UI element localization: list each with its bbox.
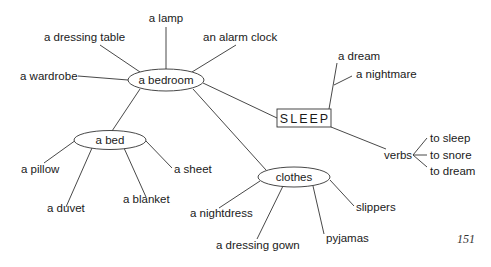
line-sleep-verbs bbox=[331, 127, 386, 149]
line-bed-blanket bbox=[124, 148, 146, 197]
line-bed-pillow bbox=[44, 140, 76, 163]
item-wardrobe: a wardrobe bbox=[20, 70, 78, 82]
page-number: 151 bbox=[457, 232, 475, 246]
item-nightmare: a nightmare bbox=[356, 68, 417, 80]
item-dressing-table: a dressing table bbox=[44, 31, 125, 43]
line-clothes-nightdress bbox=[219, 181, 260, 208]
item-pyjamas: pyjamas bbox=[326, 232, 369, 244]
line-bedroom-clothes bbox=[193, 89, 266, 170]
item-pillow: a pillow bbox=[21, 163, 60, 175]
sleep-title: SLEEP bbox=[280, 112, 330, 126]
bed-label: a bed bbox=[96, 134, 125, 146]
sleep-mind-map: a bedroom a bed clothes SLEEP verbs a la… bbox=[0, 0, 491, 267]
bedroom-label: a bedroom bbox=[139, 74, 194, 86]
item-to-dream: to dream bbox=[430, 165, 475, 177]
line-verbs-to-dream bbox=[413, 155, 427, 167]
line-bed-duvet bbox=[66, 148, 92, 207]
line-bedroom-alarm-clock bbox=[192, 45, 236, 72]
line-clothes-pyjamas bbox=[313, 186, 324, 234]
line-bed-sheet bbox=[146, 141, 172, 168]
line-verbs-to-sleep bbox=[413, 138, 427, 155]
clothes-label: clothes bbox=[276, 171, 313, 183]
item-blanket: a blanket bbox=[123, 193, 170, 205]
item-to-snore: to snore bbox=[430, 149, 472, 161]
verbs-label: verbs bbox=[384, 149, 412, 161]
item-duvet: a duvet bbox=[47, 202, 86, 214]
item-to-sleep: to sleep bbox=[430, 132, 470, 144]
line-bedroom-bed bbox=[112, 89, 140, 131]
line-sleep-dream bbox=[329, 63, 337, 109]
item-dressing-gown: a dressing gown bbox=[216, 239, 300, 251]
line-clothes-slippers bbox=[330, 180, 354, 206]
line-sleep-nightmare bbox=[334, 76, 352, 85]
item-sheet: a sheet bbox=[174, 163, 213, 175]
item-slippers: slippers bbox=[356, 201, 396, 213]
item-alarm-clock: an alarm clock bbox=[203, 31, 277, 43]
item-lamp: a lamp bbox=[149, 12, 184, 24]
line-bedroom-wardrobe bbox=[78, 76, 128, 80]
line-bedroom-dressing-table bbox=[100, 45, 140, 72]
item-nightdress: a nightdress bbox=[190, 207, 253, 219]
item-dream: a dream bbox=[338, 50, 380, 62]
line-clothes-dressing-gown bbox=[257, 186, 283, 239]
